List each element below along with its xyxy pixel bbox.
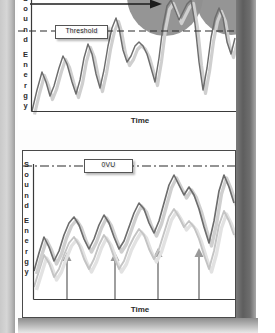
bottom-chart	[22, 150, 236, 318]
y-letter-r: r	[24, 81, 27, 91]
bottom-chart-y-axis-label: S o u n d E n e r g y	[21, 160, 32, 277]
gain-arrow-4	[195, 248, 204, 299]
top-chart-y-axis-label: Sound energy S o u n d E n e r g y	[20, 0, 31, 111]
bottom-chart-x-axis-label: Time	[110, 305, 170, 314]
zero-vu-label-chip: 0VU	[84, 159, 133, 173]
page-left-edge	[0, 0, 15, 333]
y-letter-d: d	[23, 35, 28, 45]
top-chart-x-axis-label: Time	[110, 116, 170, 125]
top-chart-plot-area	[18, 0, 236, 130]
y2-letter-y: y	[24, 267, 28, 277]
y2-letter-n: n	[24, 191, 29, 201]
threshold-label-text: Threshold	[65, 27, 97, 34]
bottom-chart-plot-area	[23, 151, 235, 317]
y-letter-E: E	[23, 50, 28, 60]
zero-vu-label-text: 0VU	[102, 161, 116, 168]
y2-letter-E: E	[24, 216, 29, 226]
y-letter-g: g	[23, 91, 28, 101]
top-chart	[18, 0, 236, 130]
y-letter-y: y	[23, 101, 27, 111]
y2-letter-g: g	[24, 257, 29, 267]
y2-letter-o: o	[24, 170, 29, 180]
top-chart-svg	[18, 0, 236, 130]
y-letter-n: n	[23, 25, 28, 35]
y2-letter-n2: n	[24, 226, 29, 236]
y-letter-u: u	[23, 14, 28, 24]
y2-letter-d: d	[24, 201, 29, 211]
y2-letter-r: r	[25, 247, 28, 257]
y2-letter-u: u	[24, 180, 29, 190]
bottom-chart-svg	[23, 151, 235, 317]
page-right-margin	[256, 0, 275, 333]
figure-page: Threshold Sound energy S o u n d E n e r…	[0, 0, 275, 333]
y2-letter-e: e	[24, 236, 28, 246]
y-letter-o: o	[23, 4, 28, 14]
threshold-label-chip: Threshold	[55, 25, 108, 39]
y-letter-n2: n	[23, 60, 28, 70]
y2-letter-S: S	[24, 160, 29, 170]
y-letter-e: e	[23, 70, 27, 80]
page-bottom-edge-shadow	[18, 318, 258, 333]
page-right-edge-shadow	[236, 0, 256, 320]
